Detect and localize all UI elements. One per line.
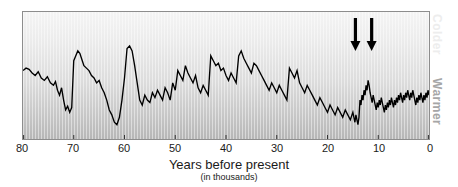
x-tick-30: 30 — [262, 142, 292, 155]
x-axis-subtitle: (in thousands) — [0, 172, 458, 182]
event-arrows — [350, 18, 376, 51]
x-axis-title: Years before present — [0, 157, 458, 172]
climate-chart-figure: 80 70 60 50 40 30 20 10 0 Years before p… — [0, 0, 458, 187]
x-tick-70: 70 — [58, 142, 88, 155]
x-tick-60: 60 — [109, 142, 139, 155]
x-tick-10: 10 — [364, 142, 394, 155]
axis-tick-marks — [24, 135, 429, 139]
x-tick-20: 20 — [313, 142, 343, 155]
x-tick-0: 0 — [415, 142, 445, 155]
y-axis-label-colder: Colder — [430, 14, 444, 55]
temperature-proxy-line — [23, 46, 429, 125]
y-axis-label-warmer: Warmer — [430, 78, 444, 125]
plot-area — [22, 11, 430, 140]
x-tick-50: 50 — [160, 142, 190, 155]
temperature-proxy-plot — [23, 12, 429, 139]
x-tick-40: 40 — [211, 142, 241, 155]
arrow-2-icon — [367, 18, 377, 51]
arrow-1-icon — [350, 18, 360, 51]
x-tick-80: 80 — [7, 142, 37, 155]
